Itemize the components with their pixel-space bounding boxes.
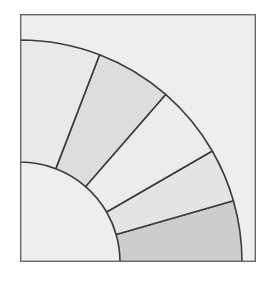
quarter-donut-chart: Segment 1Segment 2Segment 3Segment 4Segm… bbox=[20, 14, 256, 262]
chart-plot-frame: Segment 1Segment 2Segment 3Segment 4Segm… bbox=[20, 14, 256, 262]
chart-canvas: Segment 1Segment 2Segment 3Segment 4Segm… bbox=[0, 0, 275, 284]
